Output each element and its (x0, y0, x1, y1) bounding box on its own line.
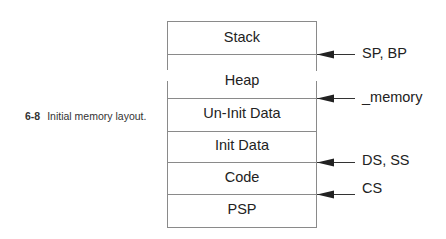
arrow-sp-bp-icon (317, 51, 355, 59)
pointer-label-memory: _memory (362, 89, 422, 105)
pointer-label-ds-ss: DS, SS (362, 152, 410, 168)
arrow-ds-ss-icon (317, 159, 355, 167)
pointer-label-sp-bp: SP, BP (362, 45, 407, 61)
arrow-cs-icon (317, 191, 355, 199)
arrow-memory-icon (317, 95, 355, 103)
pointer-label-cs: CS (362, 180, 382, 196)
pointer-arrows (0, 0, 446, 239)
